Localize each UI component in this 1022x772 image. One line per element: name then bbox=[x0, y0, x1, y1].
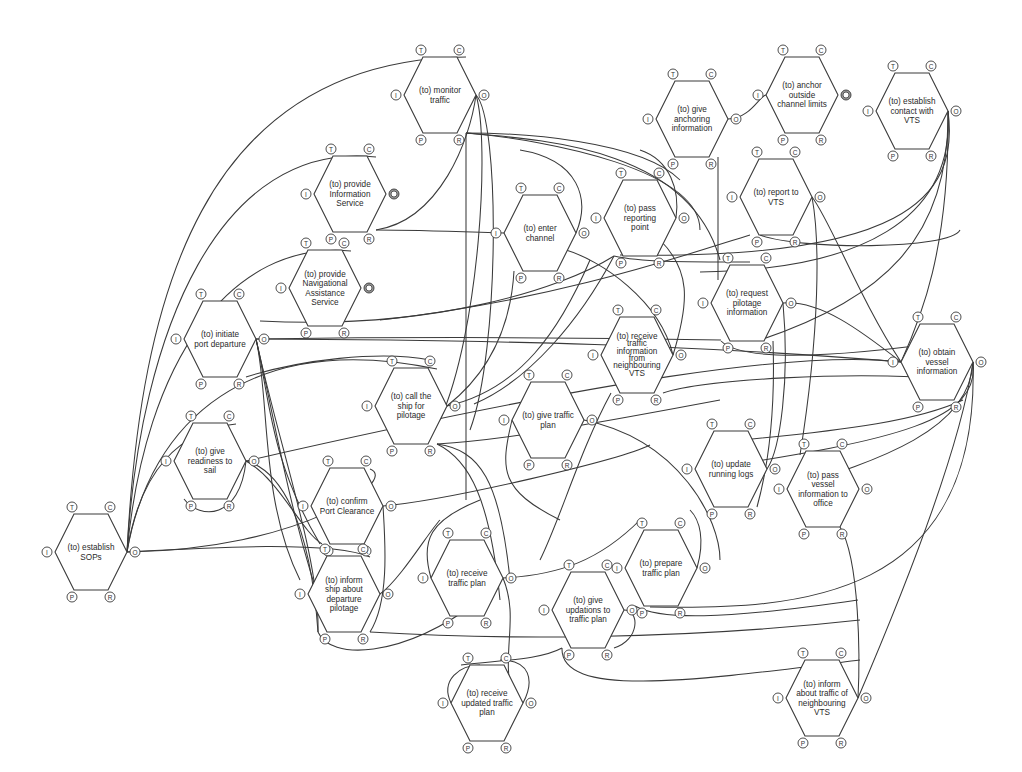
function-label: (to) informship aboutdeparturepilotage bbox=[325, 576, 364, 613]
time-port-label: T bbox=[323, 546, 327, 553]
function-node-inform-traffic-neighbour-vts[interactable]: (to) informabout traffic ofneighbouringV… bbox=[773, 648, 871, 748]
precondition-port-label: P bbox=[726, 345, 730, 352]
control-port-label: C bbox=[657, 170, 662, 177]
input-port-label: I bbox=[543, 607, 545, 614]
precondition-port-label: P bbox=[619, 260, 623, 267]
fram-diagram-canvas: (to) monitortrafficTCIOPR(to) provideInf… bbox=[0, 0, 1022, 772]
function-node-confirm-port-clearance[interactable]: (to) confirmPort ClearanceTCIOPR bbox=[298, 456, 396, 556]
resource-port-label: R bbox=[428, 448, 433, 455]
function-node-provide-info-service[interactable]: (to) provideInformationServiceTCIPR bbox=[301, 144, 399, 244]
control-port-label: C bbox=[839, 650, 844, 657]
output-port-label: O bbox=[863, 695, 868, 702]
control-port-label: C bbox=[929, 63, 934, 70]
output-port-label: O bbox=[481, 92, 486, 99]
resource-port-label: R bbox=[748, 511, 753, 518]
control-port-label: C bbox=[709, 71, 714, 78]
precondition-port-label: P bbox=[70, 594, 74, 601]
output-port-label: O bbox=[589, 417, 594, 424]
control-port-label: C bbox=[764, 255, 769, 262]
control-port-label: C bbox=[654, 307, 659, 314]
precondition-port-label: P bbox=[329, 236, 333, 243]
function-node-provide-nav-assist[interactable]: (to) provideNavigationalAssistanceServic… bbox=[276, 238, 374, 338]
function-node-receive-updated-plan[interactable]: (to) receiveupdated trafficplanTCIOPR bbox=[438, 653, 536, 753]
input-port-label: I bbox=[305, 191, 307, 198]
resource-port-label: R bbox=[793, 239, 798, 246]
function-node-give-updations-plan[interactable]: (to) giveupdations totraffic planTCIOPR bbox=[539, 560, 637, 660]
control-port-label: C bbox=[954, 314, 959, 321]
time-port-label: T bbox=[755, 149, 759, 156]
time-port-label: T bbox=[390, 358, 394, 365]
control-port-label: C bbox=[819, 47, 824, 54]
control-port-label: C bbox=[793, 149, 798, 156]
precondition-port-label: P bbox=[189, 503, 193, 510]
input-port-label: I bbox=[395, 92, 397, 99]
precondition-port-label: P bbox=[616, 397, 620, 404]
time-port-label: T bbox=[304, 240, 308, 247]
function-node-call-ship-pilotage[interactable]: (to) call theship forpilotageTCIOPR bbox=[362, 356, 460, 456]
function-node-request-pilotage-info[interactable]: (to) requestpilotageinformationTCIOPR bbox=[698, 253, 796, 353]
time-port-label: T bbox=[726, 255, 730, 262]
time-port-label: T bbox=[916, 314, 920, 321]
input-port-label: I bbox=[616, 565, 618, 572]
function-node-pass-vessel-info-office[interactable]: (to) passvesselinformation toofficeTCIOP… bbox=[774, 439, 872, 539]
control-port-label: C bbox=[364, 458, 369, 465]
input-port-label: I bbox=[165, 458, 167, 465]
resource-port-label: R bbox=[764, 345, 769, 352]
function-node-give-anchoring[interactable]: (to) giveanchoringinformationTCIOPR bbox=[643, 69, 741, 169]
precondition-port-label: P bbox=[446, 620, 450, 627]
resource-port-label: R bbox=[484, 620, 489, 627]
resource-port-label: R bbox=[605, 652, 610, 659]
input-port-label: I bbox=[686, 466, 688, 473]
function-node-establish-sops[interactable]: (to) establishSOPsTCIOPR bbox=[42, 502, 140, 602]
precondition-port-label: P bbox=[801, 740, 805, 747]
function-label: (to) giveanchoringinformation bbox=[672, 105, 713, 133]
time-port-label: T bbox=[781, 47, 785, 54]
time-port-label: T bbox=[329, 146, 333, 153]
function-node-receive-traffic-plan[interactable]: (to) receivetraffic planTCIOPR bbox=[418, 528, 516, 628]
input-port-label: I bbox=[299, 591, 301, 598]
time-port-label: T bbox=[519, 185, 523, 192]
input-port-label: I bbox=[442, 700, 444, 707]
output-port-label: O bbox=[864, 486, 869, 493]
function-node-pass-reporting-point[interactable]: (to) passreportingpointTCIOPR bbox=[591, 168, 689, 268]
resource-port-label: R bbox=[237, 381, 242, 388]
control-port-label: C bbox=[748, 421, 753, 428]
output-port-label: O bbox=[678, 352, 683, 359]
control-port-label: C bbox=[108, 504, 113, 511]
function-node-enter-channel[interactable]: (to) enterchannelTCIOPR bbox=[491, 183, 589, 283]
time-port-label: T bbox=[199, 291, 203, 298]
precondition-port-label: P bbox=[781, 137, 785, 144]
function-node-give-readiness-sail[interactable]: (to) givereadiness tosailTCIOPR bbox=[161, 411, 259, 511]
time-port-label: T bbox=[446, 530, 450, 537]
input-port-label: I bbox=[503, 417, 505, 424]
time-port-label: T bbox=[616, 307, 620, 314]
time-port-label: T bbox=[891, 63, 895, 70]
output-port-label: O bbox=[581, 230, 586, 237]
output-port-label: O bbox=[132, 549, 137, 556]
output-port-label: O bbox=[817, 194, 822, 201]
resource-port-label: R bbox=[819, 137, 824, 144]
control-port-label: C bbox=[342, 240, 347, 247]
output-port-label: O bbox=[788, 300, 793, 307]
input-port-label: I bbox=[422, 575, 424, 582]
function-node-update-running-logs[interactable]: (to) updaterunning logsTCIOPR bbox=[682, 419, 780, 519]
control-port-label: C bbox=[367, 146, 372, 153]
time-port-label: T bbox=[801, 650, 805, 657]
precondition-port-label: P bbox=[466, 745, 470, 752]
function-node-anchor-outside[interactable]: (to) anchoroutsidechannel limitsTCIPR bbox=[753, 45, 851, 145]
output-port-label: O bbox=[681, 215, 686, 222]
output-port-label: O bbox=[772, 466, 777, 473]
time-port-label: T bbox=[710, 421, 714, 428]
precondition-port-label: P bbox=[390, 448, 394, 455]
time-port-label: T bbox=[640, 520, 644, 527]
time-port-label: T bbox=[671, 71, 675, 78]
output-port-label: O bbox=[702, 565, 707, 572]
function-node-report-to-vts[interactable]: (to) report toVTSTCIOPR bbox=[727, 147, 825, 247]
precondition-port-label: P bbox=[567, 652, 571, 659]
resource-port-label: R bbox=[367, 236, 372, 243]
function-node-monitor-traffic[interactable]: (to) monitortrafficTCIOPR bbox=[391, 45, 489, 145]
function-node-obtain-vessel-info[interactable]: (to) obtainvesselinformationTCIOPR bbox=[888, 312, 986, 412]
function-label: (to) preparetraffic plan bbox=[640, 559, 683, 577]
input-port-label: I bbox=[495, 230, 497, 237]
resource-port-label: R bbox=[840, 531, 845, 538]
